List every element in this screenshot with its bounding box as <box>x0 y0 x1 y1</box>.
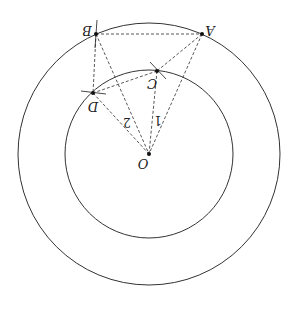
segment-AC <box>157 34 202 71</box>
points <box>91 32 204 156</box>
geometry-diagram: A B C D O 1 2 <box>0 0 298 309</box>
label-D: D <box>87 99 99 114</box>
point-C <box>155 69 159 73</box>
construction-lines <box>93 34 202 154</box>
label-angle-2: 2 <box>123 115 131 129</box>
segment-AO <box>149 34 202 154</box>
point-B <box>94 32 98 36</box>
diagram-svg: A B C D O 1 2 <box>0 0 298 309</box>
label-B: B <box>82 23 93 38</box>
point-A <box>200 32 204 36</box>
label-angle-1: 1 <box>154 113 162 127</box>
label-C: C <box>147 76 157 91</box>
point-O <box>147 152 151 156</box>
label-O: O <box>138 157 149 172</box>
segment-DO <box>93 93 149 154</box>
label-A: A <box>205 23 215 38</box>
point-D <box>91 91 95 95</box>
